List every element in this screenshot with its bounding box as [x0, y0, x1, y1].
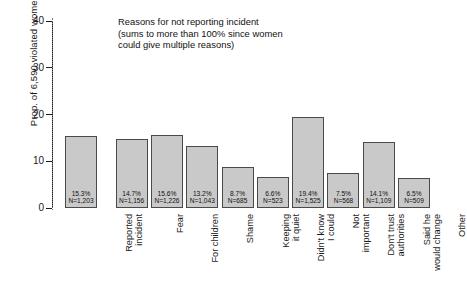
- bar-percent: 6.6%: [258, 190, 288, 198]
- bar-value-label: 15.3%N=1,203: [66, 190, 96, 205]
- bar-count: N=685: [223, 197, 253, 205]
- bar-count: N=523: [258, 197, 288, 205]
- x-tick-label: Don't trust authorities: [386, 214, 407, 292]
- bar-value-label: 6.6%N=523: [258, 190, 288, 205]
- x-tick-label: For children: [210, 214, 220, 292]
- x-tick-label: Keeping it quiet: [281, 214, 302, 292]
- bar: 14.7%N=1,156: [116, 139, 148, 208]
- bar-percent: 13.2%: [187, 190, 217, 198]
- x-tick-label: Fear: [175, 214, 185, 292]
- y-tick-label: 10: [10, 156, 44, 166]
- x-tick-label: Didn't know I could: [316, 214, 337, 292]
- bar-count: N=1,203: [66, 197, 96, 205]
- y-tick-label: 40: [10, 16, 44, 26]
- y-tick-label: 30: [10, 63, 44, 73]
- bar-percent: 8.7%: [223, 190, 253, 198]
- bar: 15.6%N=1,226: [151, 135, 183, 208]
- bar-value-label: 14.1%N=1,109: [364, 190, 394, 205]
- y-tick-label: 20: [10, 110, 44, 120]
- y-tick-label: 0: [10, 203, 44, 213]
- bar-count: N=1,043: [187, 197, 217, 205]
- bar-count: N=1,156: [117, 197, 147, 205]
- x-tick-label: Said he would change: [422, 214, 443, 292]
- bar: 13.2%N=1,043: [186, 146, 218, 208]
- bar: 8.7%N=685: [222, 167, 254, 208]
- bar-percent: 15.3%: [66, 190, 96, 198]
- bar: 7.5%N=568: [327, 173, 359, 208]
- bar-count: N=1,109: [364, 197, 394, 205]
- x-tick-label: Shame: [245, 214, 255, 292]
- plot-area: 15.3%N=1,20314.7%N=1,15615.6%N=1,22613.2…: [53, 21, 421, 208]
- bar-value-label: 8.7%N=685: [223, 190, 253, 205]
- bar-count: N=1,525: [293, 197, 323, 205]
- x-tick-label: Other: [457, 214, 467, 292]
- bar-count: N=568: [328, 197, 358, 205]
- bar: 14.1%N=1,109: [363, 142, 395, 208]
- bar: 15.3%N=1,203: [65, 136, 97, 208]
- bar-percent: 19.4%: [293, 190, 323, 198]
- bar: 19.4%N=1,525: [292, 117, 324, 208]
- bar: 6.5%N=509: [398, 178, 430, 208]
- bar-value-label: 7.5%N=568: [328, 190, 358, 205]
- bar-value-label: 6.5%N=509: [399, 190, 429, 205]
- bar-value-label: 15.6%N=1,226: [152, 190, 182, 205]
- bar: 6.6%N=523: [257, 177, 289, 208]
- bar-value-label: 14.7%N=1,156: [117, 190, 147, 205]
- bar-percent: 6.5%: [399, 190, 429, 198]
- bar-count: N=1,226: [152, 197, 182, 205]
- bar-percent: 14.1%: [364, 190, 394, 198]
- bar-percent: 15.6%: [152, 190, 182, 198]
- x-tick-label: Reported incident: [124, 214, 145, 292]
- bar-value-label: 19.4%N=1,525: [293, 190, 323, 205]
- bar-percent: 14.7%: [117, 190, 147, 198]
- bar-percent: 7.5%: [328, 190, 358, 198]
- bar-value-label: 13.2%N=1,043: [187, 190, 217, 205]
- bar-count: N=509: [399, 197, 429, 205]
- x-tick-label: Not important: [351, 214, 372, 292]
